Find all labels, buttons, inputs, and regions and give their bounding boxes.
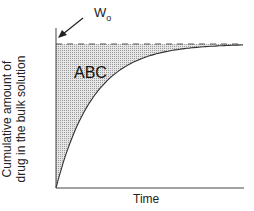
y-axis-label: Cumulative amount of drug in the bulk so… (0, 44, 34, 194)
w0-arrow-icon (58, 18, 83, 38)
w0-label-main: W (94, 5, 106, 20)
w0-label: Wo (94, 5, 111, 23)
x-axis-label: Time (133, 192, 159, 206)
abc-area-label: ABC (74, 64, 107, 82)
y-axis-label-line1: Cumulative amount of (0, 44, 14, 194)
w0-label-sub: o (106, 13, 111, 23)
chart-plot (0, 0, 254, 211)
y-axis-label-line2: drug in the bulk solution (14, 44, 28, 194)
